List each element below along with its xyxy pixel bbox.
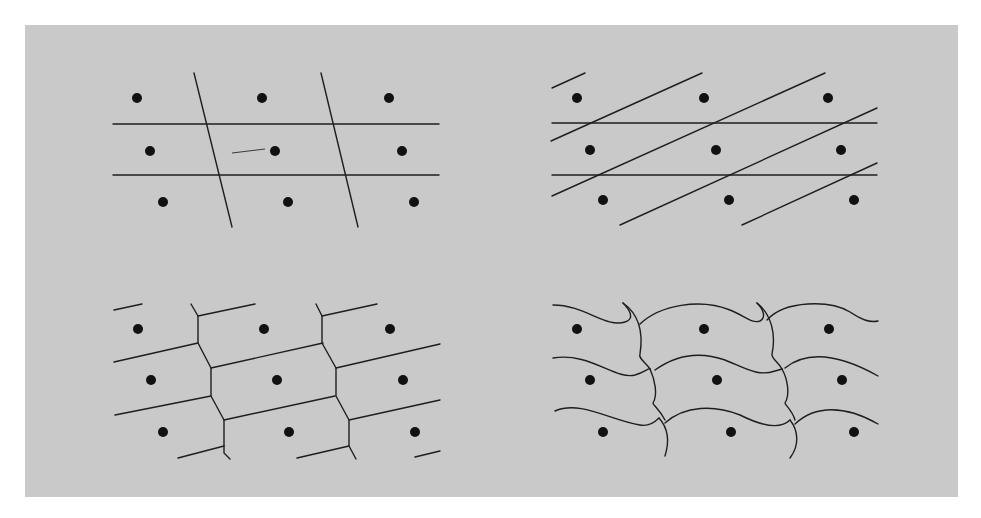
lattice-point xyxy=(836,145,846,155)
figure-background xyxy=(25,25,958,497)
lattice-point xyxy=(572,324,582,334)
lattice-point xyxy=(849,195,859,205)
lattice-point xyxy=(132,93,142,103)
lattice-point xyxy=(824,324,834,334)
lattice-point xyxy=(257,93,267,103)
lattice-point xyxy=(272,375,282,385)
lattice-point xyxy=(283,197,293,207)
lattice-point xyxy=(284,427,294,437)
lattice-point xyxy=(133,324,143,334)
lattice-point xyxy=(598,427,608,437)
lattice-point xyxy=(699,93,709,103)
lattice-point xyxy=(598,195,608,205)
lattice-point xyxy=(572,93,582,103)
lattice-point xyxy=(712,375,722,385)
lattice-point xyxy=(711,145,721,155)
lattice-point xyxy=(724,195,734,205)
lattice-point xyxy=(270,146,280,156)
lattice-point xyxy=(259,324,269,334)
lattice-point xyxy=(145,146,155,156)
lattice-point xyxy=(585,145,595,155)
lattice-point xyxy=(384,93,394,103)
lattice-point xyxy=(726,427,736,437)
lattice-point xyxy=(409,197,419,207)
lattice-point xyxy=(385,324,395,334)
lattice-point xyxy=(398,375,408,385)
lattice-partition-figure xyxy=(0,0,981,518)
lattice-point xyxy=(837,375,847,385)
lattice-point xyxy=(158,427,168,437)
lattice-point xyxy=(146,375,156,385)
lattice-point xyxy=(585,375,595,385)
lattice-point xyxy=(158,197,168,207)
lattice-point xyxy=(410,427,420,437)
lattice-point xyxy=(397,146,407,156)
lattice-point xyxy=(699,324,709,334)
lattice-point xyxy=(823,93,833,103)
lattice-point xyxy=(849,427,859,437)
